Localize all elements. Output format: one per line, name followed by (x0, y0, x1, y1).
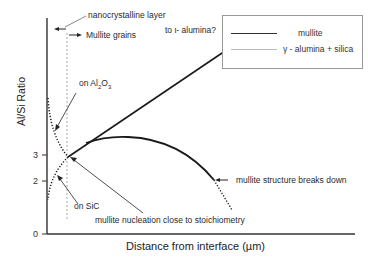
legend-box: mullite γ - alumina + silica (222, 15, 363, 69)
y-axis-title: Al/Si Ratio (16, 77, 27, 126)
on-sic-label: on SiC (74, 202, 100, 211)
on-al2o3-label: on Al2O3 (79, 79, 111, 90)
legend-swatch-solid (231, 33, 277, 34)
on-al2o3-main: on Al (79, 78, 98, 88)
mullite-grains-label: Mullite grains (86, 31, 136, 40)
nanocrystalline-leader-line (65, 16, 86, 27)
sic-dotted-curve (48, 157, 68, 200)
y-tick-label-2: 2 (33, 177, 38, 186)
breakdown-label: mullite structure breaks down (236, 176, 347, 185)
y-tick-label-0: 0 (33, 230, 38, 239)
al2o3-arrowhead-icon (55, 124, 60, 131)
legend-swatch-thin (231, 49, 277, 50)
legend-label-alumina-silica: γ - alumina + silica (283, 45, 353, 54)
on-al2o3-sub2: 3 (108, 84, 111, 90)
left-arrowhead-icon (54, 27, 59, 31)
right-arrowhead-icon (77, 33, 82, 37)
nucleation-label: mullite nucleation close to stoichiometr… (95, 216, 245, 225)
y-tick-label-3: 3 (33, 151, 38, 160)
iota-alumina-label: to ι- alumina? (165, 26, 216, 35)
x-axis-title: Distance from interface (µm) (126, 241, 265, 252)
breakdown-dotted-line (214, 180, 232, 210)
sic-arrowhead-icon (57, 175, 63, 181)
on-al2o3-o: O (101, 78, 108, 88)
legend-label-mullite: mullite (298, 29, 323, 38)
nanocrystalline-layer-label: nanocrystalline layer (88, 11, 165, 20)
mullite-arc-curve (86, 137, 214, 180)
breakdown-arrowhead-icon (215, 178, 220, 182)
